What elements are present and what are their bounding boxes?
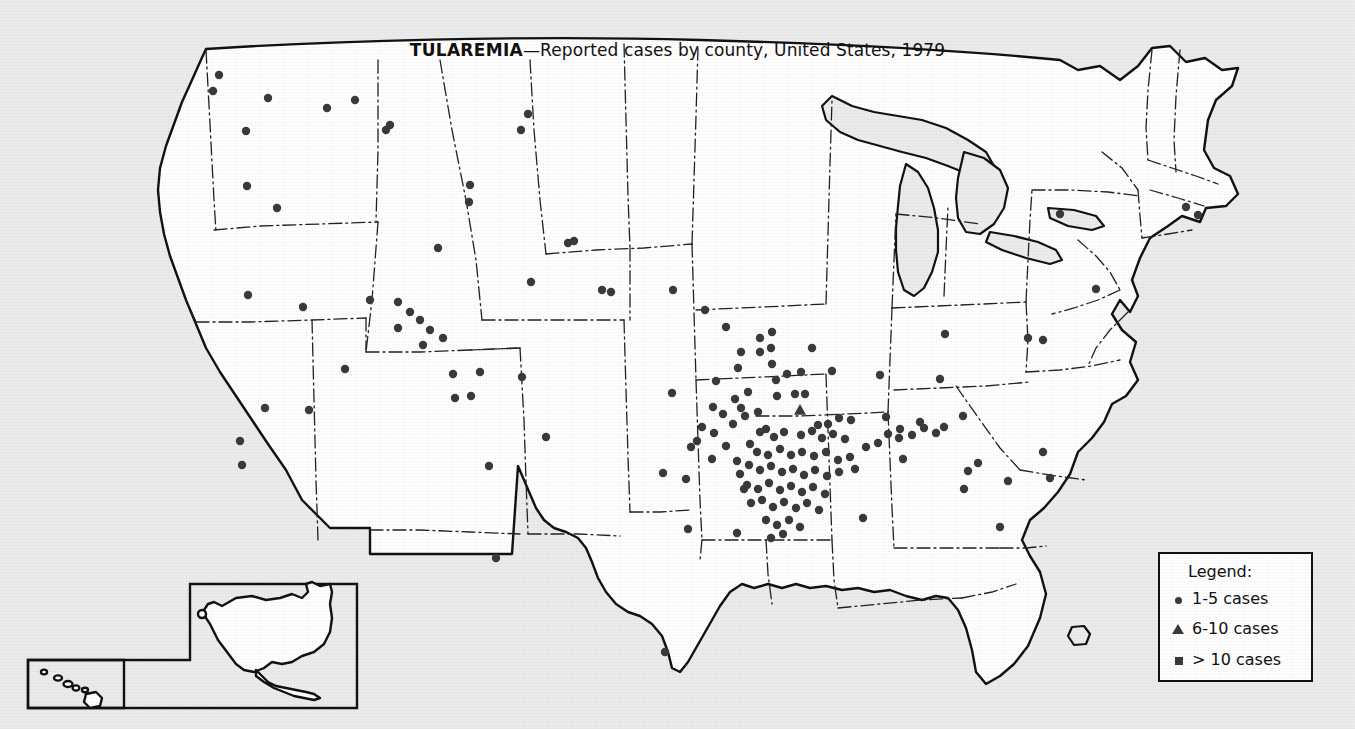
case-marker-circle [765, 479, 773, 487]
legend-item-1-5-cases: 1-5 cases [1170, 586, 1310, 610]
case-marker-circle [789, 465, 797, 473]
case-marker-circle [791, 390, 799, 398]
legend-item-6-10-cases: 6-10 cases [1170, 616, 1310, 640]
case-marker-circle [824, 420, 832, 428]
case-marker-circle [797, 431, 805, 439]
case-marker-circle [382, 126, 390, 134]
case-marker-circle [1182, 203, 1190, 211]
case-marker-circle [800, 471, 808, 479]
title-disease-name: TULAREMIA [410, 40, 523, 60]
case-marker-circle [698, 423, 706, 431]
case-marker-circle [209, 87, 217, 95]
page-title: TULAREMIA—Reported cases by county, Unit… [0, 40, 1355, 60]
case-marker-circle [768, 328, 776, 336]
case-marker-circle [238, 461, 246, 469]
case-marker-circle [687, 443, 695, 451]
tularemia-map-page: TULAREMIA—Reported cases by county, Unit… [0, 0, 1355, 729]
case-marker-circle [797, 368, 805, 376]
case-marker-circle [693, 437, 701, 445]
case-marker-circle [236, 437, 244, 445]
alaska-small-island [198, 610, 206, 618]
case-marker-circle [351, 96, 359, 104]
case-marker-circle [244, 291, 252, 299]
case-marker-circle [754, 408, 762, 416]
case-marker-circle [1092, 285, 1100, 293]
case-marker-circle [731, 395, 739, 403]
case-marker-circle [841, 435, 849, 443]
case-marker-circle [779, 530, 787, 538]
case-marker-circle [896, 425, 904, 433]
case-marker-circle [299, 303, 307, 311]
case-marker-circle [466, 181, 474, 189]
case-marker-circle [768, 360, 776, 368]
case-marker-circle [785, 516, 793, 524]
case-marker-circle [899, 455, 907, 463]
case-marker-circle [874, 439, 882, 447]
case-marker-circle [273, 204, 281, 212]
case-marker-circle [485, 462, 493, 470]
case-marker-circle [964, 467, 972, 475]
case-marker-circle [741, 412, 749, 420]
case-marker-circle [243, 182, 251, 190]
case-marker-circle [787, 451, 795, 459]
case-marker-circle [264, 94, 272, 102]
case-marker-circle [823, 472, 831, 480]
case-marker-circle [780, 428, 788, 436]
case-marker-circle [787, 482, 795, 490]
case-marker-circle [876, 371, 884, 379]
case-marker-circle [959, 412, 967, 420]
legend-label-1-5-cases: 1-5 cases [1192, 589, 1268, 608]
case-marker-circle [426, 326, 434, 334]
case-marker-circle [780, 498, 788, 506]
case-marker-circle [764, 451, 772, 459]
square-icon [1170, 650, 1184, 669]
case-marker-circle [744, 388, 752, 396]
alaska-outline [204, 582, 332, 672]
case-marker-circle [803, 499, 811, 507]
case-marker-circle [846, 453, 854, 461]
case-marker-circle [835, 468, 843, 476]
case-marker-circle [542, 433, 550, 441]
case-marker-circle [916, 418, 924, 426]
case-marker-circle [801, 390, 809, 398]
case-marker-circle [737, 404, 745, 412]
case-marker-circle [733, 457, 741, 465]
case-marker-circle [809, 483, 817, 491]
case-marker-circle [451, 394, 459, 402]
case-marker-circle [682, 475, 690, 483]
case-marker-circle [754, 485, 762, 493]
case-marker-circle [305, 406, 313, 414]
case-marker-circle [733, 529, 741, 537]
case-marker-circle [770, 433, 778, 441]
case-marker-circle [778, 468, 786, 476]
case-marker-circle [821, 490, 829, 498]
case-marker-circle [1039, 448, 1047, 456]
legend-label-over-10-cases: > 10 cases [1192, 650, 1281, 669]
case-marker-circle [564, 239, 572, 247]
case-marker-circle [719, 410, 727, 418]
case-marker-circle [598, 286, 606, 294]
case-marker-circle [261, 404, 269, 412]
case-marker-circle [859, 514, 867, 522]
case-marker-circle [818, 434, 826, 442]
case-marker-circle [835, 414, 843, 422]
case-marker-circle [936, 375, 944, 383]
case-marker-circle [712, 377, 720, 385]
case-marker-circle [772, 376, 780, 384]
case-marker-circle [773, 392, 781, 400]
legend-heading: Legend: [1188, 562, 1252, 581]
case-marker-circle [527, 278, 535, 286]
case-marker-circle [776, 486, 784, 494]
case-marker-circle [449, 370, 457, 378]
hawaii-inset-frame [28, 660, 124, 708]
case-marker-circle [884, 430, 892, 438]
case-marker-circle [709, 403, 717, 411]
case-marker-circle [736, 470, 744, 478]
case-marker-circle [767, 344, 775, 352]
case-marker-circle [798, 488, 806, 496]
case-marker-circle [940, 423, 948, 431]
case-marker-circle [756, 466, 764, 474]
case-marker-circle [607, 288, 615, 296]
case-marker-circle [419, 341, 427, 349]
case-marker-circle [808, 427, 816, 435]
